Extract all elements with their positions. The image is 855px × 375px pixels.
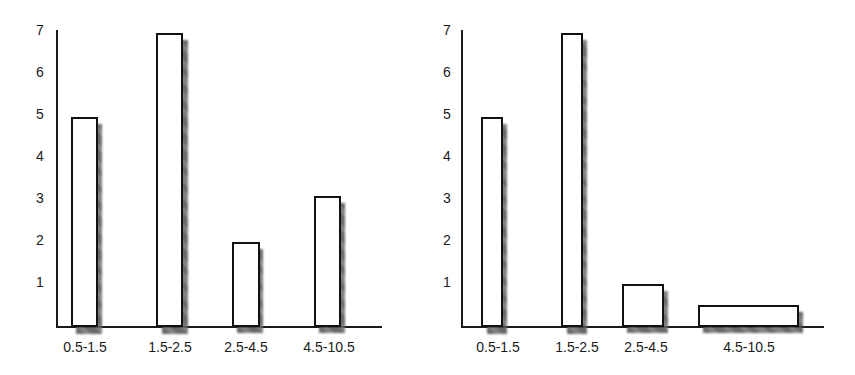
y-tick-label: 1 xyxy=(440,275,454,289)
y-tick-label: 7 xyxy=(440,23,454,37)
bar-2.5-4.5 xyxy=(232,242,260,327)
bar-4.5-10.5 xyxy=(314,196,341,327)
bar-0.5-1.5 xyxy=(71,117,98,327)
y-tick-label: 6 xyxy=(440,65,454,79)
bar-4.5-10.5 xyxy=(698,305,799,327)
x-tick-label: 2.5-4.5 xyxy=(601,340,691,354)
bar-1.5-2.5 xyxy=(561,33,583,327)
y-axis xyxy=(461,30,463,327)
y-tick-label: 3 xyxy=(440,191,454,205)
y-tick-label: 4 xyxy=(440,149,454,163)
bar-1.5-2.5 xyxy=(156,33,183,327)
bar-0.5-1.5 xyxy=(481,117,503,327)
x-tick-label: 0.5-1.5 xyxy=(453,340,543,354)
x-tick-label: 4.5-10.5 xyxy=(704,340,794,354)
y-tick-label: 5 xyxy=(440,107,454,121)
right-histogram: 7 6 5 4 3 2 1 0.5-1.5 1.5-2.5 2.5-4.5 4.… xyxy=(0,0,855,375)
bar-2.5-4.5 xyxy=(622,284,664,327)
y-tick-label: 2 xyxy=(440,233,454,247)
